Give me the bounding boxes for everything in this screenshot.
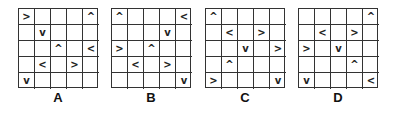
arrow-left-icon: < — [222, 25, 238, 41]
arrow-grid: ^<>v>^>v — [205, 8, 285, 88]
grid-cell — [160, 73, 176, 89]
grid-cell — [51, 9, 67, 25]
grid-cell — [176, 41, 192, 57]
arrow-right-icon: > — [270, 41, 286, 57]
grid-cell — [315, 57, 331, 73]
arrow-down-icon: v — [270, 73, 286, 89]
grid-cell — [254, 41, 270, 57]
option-label: D — [298, 90, 378, 105]
grid-cell — [222, 41, 238, 57]
arrow-right-icon: > — [160, 57, 176, 73]
grid-cell — [67, 25, 83, 41]
grid-cell — [331, 9, 347, 25]
option-label: A — [18, 90, 98, 105]
grid-cell — [35, 9, 51, 25]
grid-cell — [112, 73, 128, 89]
grid-cell — [35, 73, 51, 89]
arrow-right-icon: > — [254, 25, 270, 41]
grid-cell — [270, 57, 286, 73]
grid-cell — [315, 41, 331, 57]
option-label: C — [205, 90, 285, 105]
grid-cell — [19, 57, 35, 73]
arrow-right-icon: > — [206, 73, 222, 89]
grid-cell — [254, 57, 270, 73]
arrow-down-icon: v — [238, 41, 254, 57]
option-a[interactable]: >^v^<<>v — [18, 8, 98, 88]
grid-cell — [19, 41, 35, 57]
arrow-down-icon: v — [176, 73, 192, 89]
arrow-down-icon: v — [299, 73, 315, 89]
arrow-up-icon: ^ — [206, 9, 222, 25]
arrow-grid: ^<>>v^v< — [298, 8, 378, 88]
arrow-down-icon: v — [160, 25, 176, 41]
arrow-up-icon: ^ — [83, 9, 99, 25]
grid-cell — [238, 57, 254, 73]
arrow-up-icon: ^ — [363, 9, 379, 25]
grid-cell — [19, 25, 35, 41]
arrow-up-icon: ^ — [51, 41, 67, 57]
grid-cell — [144, 57, 160, 73]
grid-cell — [222, 73, 238, 89]
grid-cell — [144, 9, 160, 25]
grid-cell — [347, 41, 363, 57]
arrow-left-icon: < — [363, 73, 379, 89]
arrow-left-icon: < — [176, 9, 192, 25]
grid-cell — [331, 57, 347, 73]
grid-cell — [51, 73, 67, 89]
grid-cell — [238, 25, 254, 41]
grid-cell — [128, 41, 144, 57]
grid-cell — [51, 25, 67, 41]
arrow-down-icon: v — [35, 25, 51, 41]
grid-cell — [176, 57, 192, 73]
grid-cell — [238, 9, 254, 25]
option-b[interactable]: ^<v>^<>v — [111, 8, 191, 88]
option-d[interactable]: ^<>>v^v< — [298, 8, 378, 88]
grid-cell — [51, 57, 67, 73]
arrow-right-icon: > — [347, 25, 363, 41]
option-c[interactable]: ^<>v>^>v — [205, 8, 285, 88]
grid-cell — [67, 9, 83, 25]
grid-cell — [270, 25, 286, 41]
grid-cell — [299, 25, 315, 41]
grid-cell — [67, 73, 83, 89]
arrow-right-icon: > — [299, 41, 315, 57]
arrow-left-icon: < — [315, 25, 331, 41]
grid-cell — [363, 25, 379, 41]
grid-cell — [347, 9, 363, 25]
grid-cell — [144, 73, 160, 89]
arrow-up-icon: ^ — [144, 41, 160, 57]
grid-cell — [112, 57, 128, 73]
arrow-up-icon: ^ — [347, 57, 363, 73]
arrow-right-icon: > — [19, 9, 35, 25]
grid-cell — [363, 57, 379, 73]
grid-cell — [238, 73, 254, 89]
grid-cell — [176, 25, 192, 41]
arrow-up-icon: ^ — [112, 9, 128, 25]
grid-cell — [83, 73, 99, 89]
arrow-down-icon: v — [19, 73, 35, 89]
grid-cell — [254, 9, 270, 25]
grid-cell — [128, 25, 144, 41]
grid-cell — [160, 41, 176, 57]
grid-cell — [206, 25, 222, 41]
grid-cell — [206, 57, 222, 73]
grid-cell — [83, 57, 99, 73]
arrow-left-icon: < — [35, 57, 51, 73]
grid-cell — [363, 41, 379, 57]
grid-cell — [67, 41, 83, 57]
grid-cell — [112, 25, 128, 41]
grid-cell — [160, 9, 176, 25]
grid-cell — [315, 9, 331, 25]
grid-cell — [315, 73, 331, 89]
arrow-right-icon: > — [67, 57, 83, 73]
arrow-up-icon: ^ — [222, 57, 238, 73]
grid-cell — [347, 73, 363, 89]
arrow-left-icon: < — [128, 57, 144, 73]
grid-cell — [331, 25, 347, 41]
option-label: B — [111, 90, 191, 105]
grid-cell — [206, 41, 222, 57]
grid-cell — [299, 9, 315, 25]
grid-cell — [128, 9, 144, 25]
grid-cell — [222, 9, 238, 25]
grid-cell — [331, 73, 347, 89]
